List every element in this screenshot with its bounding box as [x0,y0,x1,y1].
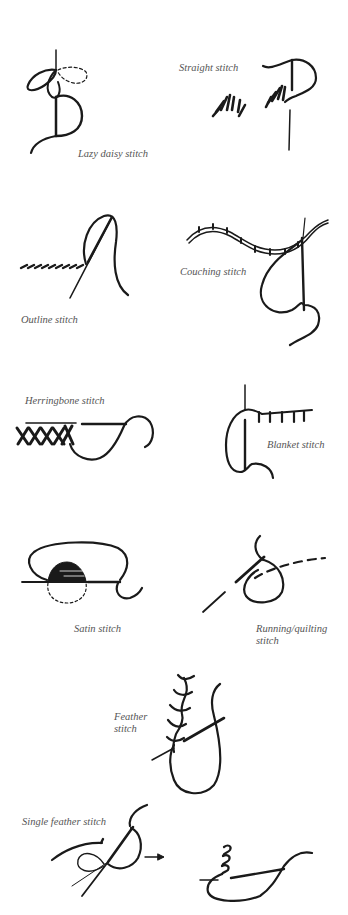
label-feather-line1: Feather [114,711,147,723]
label-couching: Couching stitch [180,266,246,278]
label-straight: Straight stitch [179,62,238,74]
running-quilting-illustration [203,536,325,612]
blanket-stitch-illustration [226,385,312,478]
outline-stitch-illustration [21,215,128,298]
stitch-illustrations [0,0,348,915]
satin-stitch-illustration [22,542,142,603]
label-running-quilting-line1: Running/quilting [256,623,327,635]
label-blanket: Blanket stitch [267,439,324,451]
label-outline: Outline stitch [21,314,78,326]
label-herringbone: Herringbone stitch [25,395,105,407]
label-feather: Feather stitch [114,711,147,735]
label-satin: Satin stitch [74,623,121,635]
label-running-quilting: Running/quilting stitch [256,623,327,647]
couching-stitch-illustration [187,218,328,345]
label-single-feather: Single feather stitch [22,816,106,828]
label-lazy-daisy: Lazy daisy stitch [78,148,148,160]
label-feather-line2: stitch [114,723,147,735]
herringbone-stitch-illustration [17,416,153,459]
single-feather-illustration-right [200,846,312,901]
lazy-daisy-illustration [27,50,86,153]
label-running-quilting-line2: stitch [256,635,327,647]
arrow-icon [145,854,164,860]
feather-stitch-illustration [152,675,224,793]
